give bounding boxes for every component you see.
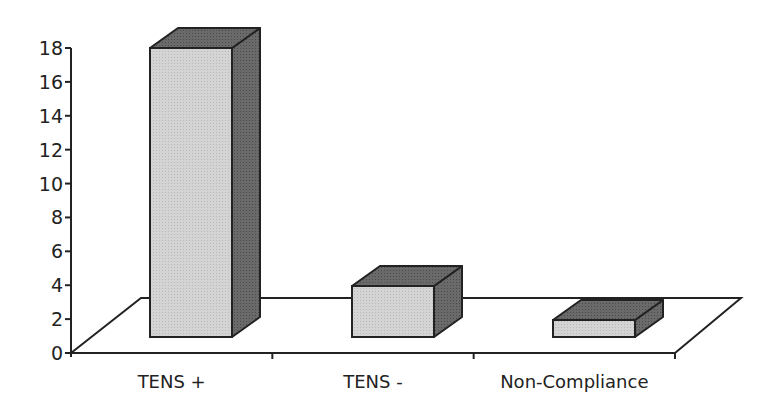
x-category-label: TENS +: [137, 371, 206, 392]
bar-side: [232, 28, 260, 337]
bar: [553, 300, 663, 337]
bar-front: [352, 286, 434, 337]
bar: [150, 28, 260, 337]
bar-chart: 024681012141618 TENS +TENS -Non-Complian…: [0, 0, 781, 420]
bars: [150, 28, 663, 337]
y-axis: 024681012141618: [39, 37, 71, 364]
y-tick-label: 4: [51, 274, 63, 296]
y-tick-label: 6: [51, 240, 63, 262]
x-category-label: Non-Compliance: [500, 371, 648, 392]
x-axis: TENS +TENS -Non-Compliance: [71, 353, 675, 392]
y-tick-label: 16: [39, 71, 63, 93]
x-category-label: TENS -: [342, 371, 402, 392]
bar-front: [150, 48, 232, 337]
y-tick-label: 18: [39, 37, 63, 59]
y-tick-label: 10: [39, 173, 63, 195]
y-tick-label: 0: [51, 342, 63, 364]
bar: [352, 266, 462, 337]
y-tick-label: 12: [39, 139, 63, 161]
y-tick-label: 2: [51, 308, 63, 330]
y-tick-label: 8: [51, 206, 63, 228]
y-tick-label: 14: [39, 105, 63, 127]
bar-front: [553, 320, 635, 337]
